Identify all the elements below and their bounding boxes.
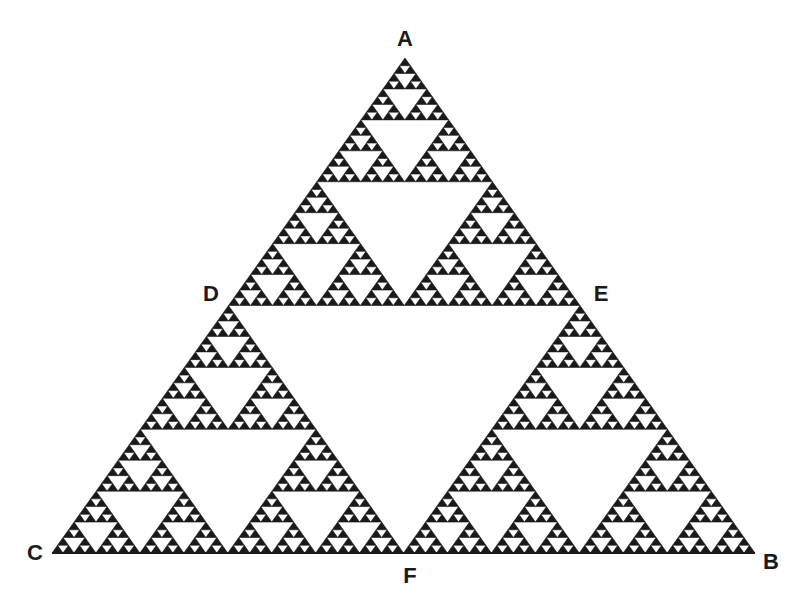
midpoint-label-e: E [594, 283, 609, 305]
vertex-label-b: B [763, 551, 779, 573]
sierpinski-fractal [52, 58, 755, 553]
midpoint-label-d: D [203, 283, 219, 305]
vertex-label-c: C [27, 542, 43, 564]
sierpinski-triangle-diagram [0, 0, 802, 599]
midpoint-label-f: F [403, 565, 416, 587]
fractal-triangles [52, 58, 755, 553]
vertex-label-a: A [397, 28, 413, 50]
